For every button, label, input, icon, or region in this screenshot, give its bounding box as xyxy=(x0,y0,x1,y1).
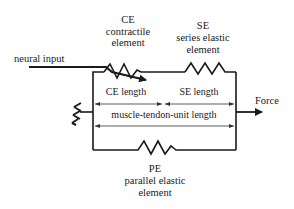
left-frame-line xyxy=(93,72,104,150)
pe-name-line1: parallel elastic xyxy=(125,175,186,186)
muscle-model-diagram: CE contractile element SE series elastic… xyxy=(0,0,294,209)
mtu-length-label: muscle-tendon-unit length xyxy=(111,109,216,120)
pe-name-line2: element xyxy=(138,187,171,198)
force-label: Force xyxy=(255,95,279,106)
se-series-elastic-element xyxy=(185,63,236,74)
pe-parallel-elastic-element xyxy=(93,141,236,154)
se-label-group: SE series elastic element xyxy=(176,20,230,55)
se-name-line2: element xyxy=(186,44,219,55)
ground-attachment-icon xyxy=(72,103,93,125)
se-abbr: SE xyxy=(197,20,209,31)
pe-label-group: PE parallel elastic element xyxy=(125,163,186,198)
ce-length-label: CE length xyxy=(106,86,146,97)
ce-name-line1: contractile xyxy=(106,26,151,37)
ce-name-line2: element xyxy=(111,37,144,48)
ce-label-group: CE contractile element xyxy=(106,14,151,48)
neural-input-label: neural input xyxy=(14,53,65,64)
se-length-label: SE length xyxy=(179,86,218,97)
se-name-line1: series elastic xyxy=(176,32,230,43)
pe-abbr: PE xyxy=(149,163,161,174)
ce-abbr: CE xyxy=(121,14,134,25)
